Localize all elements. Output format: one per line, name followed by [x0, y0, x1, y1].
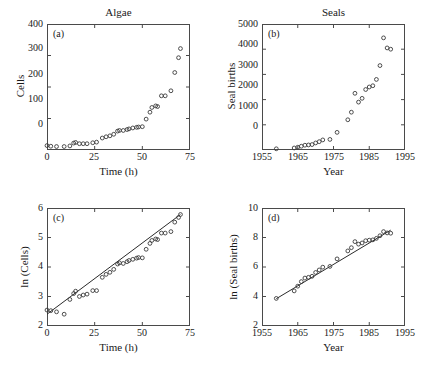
data-point	[78, 295, 82, 299]
data-point	[68, 298, 72, 302]
data-point	[100, 275, 104, 279]
data-point	[346, 249, 350, 253]
panel-b-xlabel: Year	[262, 165, 405, 177]
panel-d-xlabel: Year	[262, 341, 405, 353]
panel-a-xlabel: Time (h)	[47, 165, 190, 177]
data-point	[91, 141, 95, 145]
panel-a-xtick-25: 25	[82, 151, 106, 162]
panel-d-plot-area	[262, 208, 405, 326]
panel-c-xtick-0: 0	[35, 327, 59, 338]
data-point	[81, 142, 85, 146]
panel-d-ytick-8: 8	[226, 231, 258, 242]
panel-c-ytick-4: 4	[14, 260, 43, 271]
data-point	[169, 89, 173, 93]
data-point	[144, 247, 148, 251]
panel-b-ytick-1000: 1000	[218, 100, 258, 111]
regression-line	[276, 230, 390, 299]
panel-b-ytick-0: 0	[218, 120, 258, 131]
data-point	[91, 289, 95, 293]
data-point	[100, 136, 104, 140]
panel-b-ytick-3000: 3000	[218, 59, 258, 70]
data-point	[95, 289, 99, 293]
data-point	[360, 96, 364, 100]
panel-d-ytick-6: 6	[226, 260, 258, 271]
panel-a-xtick-50: 50	[130, 151, 154, 162]
data-point	[131, 257, 135, 261]
panel-d-xtick-1975: 1975	[316, 327, 352, 338]
panel-b-ytick-4000: 4000	[218, 38, 258, 49]
data-point	[104, 272, 108, 276]
data-point	[328, 138, 332, 142]
data-point	[349, 246, 353, 250]
data-point	[49, 144, 53, 148]
panel-a-title: Algae	[47, 6, 190, 18]
panel-a-ytick-0: 0	[8, 118, 43, 129]
data-point	[150, 106, 154, 110]
data-point	[62, 145, 66, 149]
data-point	[112, 132, 116, 136]
panel-b-xtick-1985: 1985	[351, 151, 387, 162]
data-point	[160, 94, 164, 98]
panel-a-xtick-0: 0	[35, 151, 59, 162]
data-point	[140, 125, 144, 129]
regression-line	[47, 214, 180, 314]
data-point	[314, 271, 318, 275]
data-point	[78, 142, 82, 146]
data-point	[353, 240, 357, 244]
data-point	[62, 312, 66, 316]
data-point	[121, 262, 125, 266]
data-point	[112, 267, 116, 271]
data-point	[378, 64, 382, 68]
data-point	[321, 138, 325, 142]
panel-d-xtick-1985: 1985	[351, 327, 387, 338]
data-point	[85, 142, 89, 146]
panel-b-ytick-5000: 5000	[218, 18, 258, 29]
data-point	[55, 145, 59, 149]
data-point	[346, 118, 350, 122]
data-point	[177, 56, 181, 60]
data-point	[179, 47, 183, 51]
data-point	[292, 289, 296, 293]
data-point	[173, 220, 177, 224]
data-point	[360, 241, 364, 245]
panel-a-ytick-100: 100	[8, 93, 43, 104]
panel-c-ytick-6: 6	[14, 202, 43, 213]
panel-c-xtick-25: 25	[82, 327, 106, 338]
data-point	[317, 268, 321, 272]
panel-b-xtick-1965: 1965	[280, 151, 316, 162]
data-point	[81, 293, 85, 297]
data-point	[382, 36, 386, 40]
data-point	[179, 213, 183, 217]
panel-a-ytick-200: 200	[8, 68, 43, 79]
panel-a-xtick-75: 75	[178, 151, 202, 162]
data-point	[163, 231, 167, 235]
data-point	[108, 134, 112, 138]
panel-d-ytick-4: 4	[226, 290, 258, 301]
data-point	[364, 88, 368, 92]
data-point	[335, 257, 339, 261]
data-point	[335, 130, 339, 134]
data-point	[55, 310, 59, 314]
data-point	[353, 91, 357, 95]
data-point	[163, 94, 167, 98]
data-point	[349, 110, 353, 114]
panel-c-plot-area	[47, 208, 190, 326]
figure-container: Algae (a) Cells Time (h) 400 300 200 100…	[0, 0, 426, 368]
panel-d-xtick-1955: 1955	[244, 327, 280, 338]
panel-c-xtick-75: 75	[178, 327, 202, 338]
data-point	[357, 100, 361, 104]
panel-b-xtick-1995: 1995	[387, 151, 423, 162]
panel-b-ytick-2000: 2000	[218, 79, 258, 90]
data-point	[68, 144, 72, 148]
panel-b-xtick-1955: 1955	[244, 151, 280, 162]
panel-d-ytick-10: 10	[226, 202, 258, 213]
data-point	[104, 135, 108, 139]
panel-a-ylabel: Cells	[14, 56, 26, 116]
data-point	[389, 47, 393, 51]
data-point	[321, 265, 325, 269]
data-point	[375, 78, 379, 82]
data-point	[95, 140, 99, 144]
panel-b-title: Seals	[262, 6, 405, 18]
panel-b-plot-area	[262, 24, 405, 150]
data-point	[160, 231, 164, 235]
